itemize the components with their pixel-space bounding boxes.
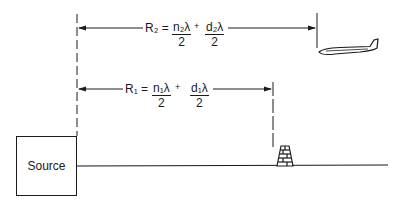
arrowhead-left-icon <box>78 26 86 31</box>
arrowhead-right-icon <box>308 26 316 31</box>
r1-term2-fraction: d₁λ 2 <box>190 82 209 109</box>
tower-icon <box>277 146 293 166</box>
r2-term2-denominator: 2 <box>205 35 224 48</box>
r2-term2-numerator: d₂λ <box>205 21 224 35</box>
r2-lhs: R₂ = <box>145 22 169 34</box>
r2-operator: + <box>194 22 199 31</box>
r1-term1-numerator: n₁λ <box>152 82 171 96</box>
ground-line <box>77 165 388 166</box>
r1-dimension-line <box>78 82 273 150</box>
source-label: Source <box>27 159 65 173</box>
airplane-icon <box>319 39 378 54</box>
arrowhead-left-icon <box>78 87 86 92</box>
r1-term1-fraction: n₁λ 2 <box>152 82 171 109</box>
r1-lhs: R₁ = <box>125 83 148 95</box>
r2-term1-numerator: n₂λ <box>172 21 191 35</box>
r1-term2-numerator: d₁λ <box>190 82 209 96</box>
r1-term2-denominator: 2 <box>190 96 209 109</box>
r1-operator: + <box>175 83 180 92</box>
r1-term1-denominator: 2 <box>152 96 171 109</box>
r2-term1-fraction: n₂λ 2 <box>172 21 191 48</box>
r2-term1-denominator: 2 <box>172 35 191 48</box>
arrowhead-right-icon <box>264 87 272 92</box>
r2-term2-fraction: d₂λ 2 <box>205 21 224 48</box>
source-box: Source <box>16 136 77 196</box>
